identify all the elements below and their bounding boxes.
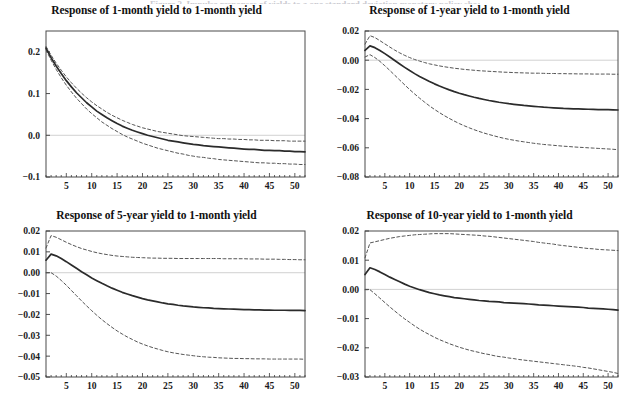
y-tick-label: 0.01 xyxy=(342,255,359,266)
y-tick-label: −0.01 xyxy=(337,313,359,324)
x-tick-label: 50 xyxy=(290,380,300,391)
x-tick-label: 40 xyxy=(554,380,564,391)
plot-svg: 51015202530354045500.020.010.00−0.01−0.0… xyxy=(0,205,313,410)
x-tick-label: 25 xyxy=(479,380,489,391)
panel-response-1-month: Response of 1-month yield to 1-month yie… xyxy=(0,0,313,205)
x-tick-label: 40 xyxy=(239,380,249,391)
plot-area: 51015202530354045500.020.00−0.02−0.04−0.… xyxy=(313,0,626,205)
y-tick-label: 0.02 xyxy=(23,225,40,236)
x-tick-label: 35 xyxy=(214,180,224,191)
confidence-band-line xyxy=(46,273,305,360)
response-line xyxy=(46,254,305,311)
x-tick-label: 5 xyxy=(382,180,387,191)
x-tick-label: 10 xyxy=(87,380,97,391)
x-tick-label: 35 xyxy=(529,180,539,191)
plot-svg: 51015202530354045500.020.010.00−0.01−0.0… xyxy=(313,205,626,410)
panel-response-1-year: Response of 1-year yield to 1-month yiel… xyxy=(313,0,626,205)
y-tick-label: −0.05 xyxy=(18,371,40,382)
x-tick-label: 30 xyxy=(504,180,514,191)
x-tick-label: 50 xyxy=(603,180,613,191)
panel-response-5-year: Response of 5-year yield to 1-month yiel… xyxy=(0,205,313,410)
impulse-response-figure: Figure 2. Impulse responses of yields to… xyxy=(0,0,626,411)
response-line xyxy=(46,48,305,152)
x-tick-label: 10 xyxy=(405,380,415,391)
plot-area: 51015202530354045500.20.10.0−0.1 xyxy=(0,0,313,205)
x-tick-label: 15 xyxy=(112,380,122,391)
confidence-band-line xyxy=(365,36,618,75)
x-tick-label: 50 xyxy=(603,380,613,391)
response-line xyxy=(365,46,618,110)
y-tick-label: −0.03 xyxy=(18,330,40,341)
y-tick-label: −0.02 xyxy=(337,342,359,353)
y-tick-label: 0.00 xyxy=(342,284,359,295)
x-tick-label: 35 xyxy=(214,380,224,391)
x-tick-label: 50 xyxy=(290,180,300,191)
x-tick-label: 45 xyxy=(265,180,275,191)
x-tick-label: 20 xyxy=(138,180,148,191)
x-tick-label: 30 xyxy=(504,380,514,391)
confidence-band-line xyxy=(46,236,305,260)
confidence-band-line xyxy=(46,50,305,165)
y-tick-label: −0.03 xyxy=(337,371,359,382)
x-tick-label: 15 xyxy=(430,180,440,191)
y-tick-label: 0.01 xyxy=(23,246,40,257)
x-tick-label: 20 xyxy=(454,380,464,391)
x-tick-label: 5 xyxy=(382,380,387,391)
y-tick-label: −0.04 xyxy=(337,113,359,124)
plot-svg: 51015202530354045500.020.00−0.02−0.04−0.… xyxy=(313,0,626,205)
plot-area: 51015202530354045500.020.010.00−0.01−0.0… xyxy=(313,205,626,410)
x-tick-label: 15 xyxy=(112,180,122,191)
y-tick-label: 0.1 xyxy=(28,88,40,99)
x-tick-label: 20 xyxy=(454,180,464,191)
y-tick-label: −0.04 xyxy=(18,351,40,362)
x-tick-label: 20 xyxy=(138,380,148,391)
confidence-band-line xyxy=(365,234,618,258)
y-tick-label: 0.02 xyxy=(342,25,359,36)
y-tick-label: 0.00 xyxy=(342,55,359,66)
x-tick-label: 10 xyxy=(405,180,415,191)
x-tick-label: 25 xyxy=(163,380,173,391)
y-tick-label: −0.02 xyxy=(337,84,359,95)
x-tick-label: 45 xyxy=(578,180,588,191)
panel-response-10-year: Response of 10-year yield to 1-month yie… xyxy=(313,205,626,410)
x-tick-label: 40 xyxy=(239,180,249,191)
y-tick-label: 0.2 xyxy=(28,46,40,57)
y-tick-label: −0.06 xyxy=(337,142,359,153)
y-tick-label: −0.08 xyxy=(337,171,359,182)
x-tick-label: 45 xyxy=(578,380,588,391)
y-tick-label: 0.0 xyxy=(28,130,40,141)
x-tick-label: 30 xyxy=(188,380,198,391)
y-tick-label: 0.02 xyxy=(342,225,359,236)
y-tick-label: 0.00 xyxy=(23,267,40,278)
x-tick-label: 5 xyxy=(64,380,69,391)
x-tick-label: 5 xyxy=(64,180,69,191)
confidence-band-line xyxy=(46,46,305,141)
x-tick-label: 15 xyxy=(430,380,440,391)
y-tick-label: −0.1 xyxy=(23,171,41,182)
x-tick-label: 45 xyxy=(265,380,275,391)
y-tick-label: −0.02 xyxy=(18,309,40,320)
x-tick-label: 40 xyxy=(554,180,564,191)
x-tick-label: 25 xyxy=(163,180,173,191)
axis-frame xyxy=(46,31,305,177)
x-tick-label: 25 xyxy=(479,180,489,191)
x-tick-label: 10 xyxy=(87,180,97,191)
x-tick-label: 35 xyxy=(529,380,539,391)
axis-frame xyxy=(365,31,618,177)
x-tick-label: 30 xyxy=(188,180,198,191)
confidence-band-line xyxy=(365,55,618,150)
plot-svg: 51015202530354045500.20.10.0−0.1 xyxy=(0,0,313,205)
plot-area: 51015202530354045500.020.010.00−0.01−0.0… xyxy=(0,205,313,410)
y-tick-label: −0.01 xyxy=(18,288,40,299)
